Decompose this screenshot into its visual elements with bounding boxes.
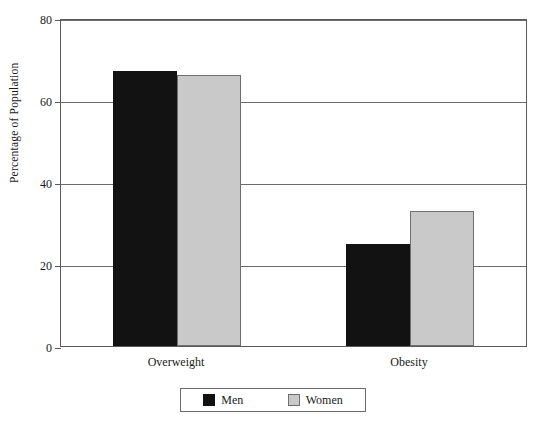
y-tick-label: 20 [40,260,52,272]
x-axis-label-overweight: Overweight [148,355,205,370]
legend-label: Women [306,394,343,406]
plot-area: 020406080 [60,19,527,347]
legend-label: Men [221,394,243,406]
legend-entry-men: Men [203,394,243,406]
bar-chart-figure: Percentage of Population 020406080 Overw… [0,0,543,434]
y-tick-label: 0 [46,342,52,354]
y-tick-label: 60 [40,96,52,108]
y-tick-mark [55,102,61,103]
y-tick-mark [55,266,61,267]
bar-overweight-men [113,71,177,346]
y-tick-mark [55,348,61,349]
bar-obesity-women [410,211,474,346]
y-axis-title: Percentage of Population [8,63,20,183]
legend-swatch-women-icon [288,394,300,406]
bar-overweight-women [177,75,241,346]
y-tick-mark [55,184,61,185]
x-axis-label-obesity: Obesity [390,355,427,370]
y-tick-label: 40 [40,178,52,190]
gridline-80 [61,20,526,21]
y-tick-label: 80 [40,14,52,26]
legend-entry-women: Women [288,394,343,406]
legend-swatch-men-icon [203,394,215,406]
bar-obesity-men [346,244,410,347]
legend: MenWomen [180,388,366,412]
y-tick-mark [55,20,61,21]
